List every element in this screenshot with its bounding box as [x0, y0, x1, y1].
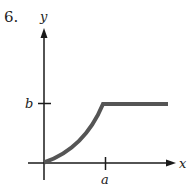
graph: 6. y x b a [0, 0, 193, 192]
y-axis-arrow-icon [41, 28, 48, 38]
x-axis-label: x [179, 156, 187, 171]
y-axis-label: y [39, 9, 48, 24]
y-tick-label-b: b [25, 96, 33, 111]
function-curve [44, 104, 168, 163]
problem-number: 6. [4, 8, 18, 26]
x-axis-arrow-icon [166, 160, 176, 167]
x-tick-label-a: a [101, 172, 109, 187]
